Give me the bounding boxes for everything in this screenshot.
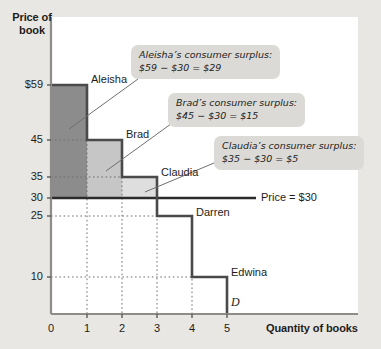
y-tick-label-45: 45 [3,133,43,145]
x-tick-label-5: 5 [217,322,237,334]
y-tick-label-10: 10 [3,270,43,282]
aleisha-surplus-block [51,85,87,198]
consumer-label-claudia: Claudia [161,166,198,178]
price-line-label: Price = $30 [261,191,317,203]
demand-curve-label: D [231,295,240,310]
callout-claudia-line1: Claudia’s consumer surplus: [222,140,356,151]
y-tick-label-30: 30 [3,191,43,203]
x-tick-label-4: 4 [182,322,202,334]
callout-aleisha-line2: $59 − $30 = $29 [139,62,221,73]
consumer-surplus-figure: Price of book Quantity of books $59 45 3… [0,0,381,349]
consumer-label-darren: Darren [196,206,230,218]
y-tick-label-59: $59 [3,78,43,90]
y-axis-title: Price of book [11,11,53,37]
brad-surplus-block [87,140,122,198]
x-axis-title: Quantity of books [266,322,358,335]
callout-brad-surplus: Brad’s consumer surplus: $45 − $30 = $15 [168,93,305,127]
y-tick-label-35: 35 [3,170,43,182]
x-tick-label-1: 1 [77,322,97,334]
claudia-surplus-block [122,177,157,198]
y-tick-label-25: 25 [3,209,43,221]
callout-claudia-line2: $35 − $30 = $5 [222,153,298,164]
x-tick-label-0: 0 [41,322,61,334]
callout-aleisha-surplus: Aleisha’s consumer surplus: $59 − $30 = … [131,45,280,79]
x-tick-label-3: 3 [147,322,167,334]
figure-panel: Price of book Quantity of books $59 45 3… [3,3,378,346]
consumer-label-aleisha: Aleisha [91,73,127,85]
callout-claudia-surplus: Claudia’s consumer surplus: $35 − $30 = … [214,136,364,170]
consumer-label-brad: Brad [126,128,149,140]
x-tick-label-2: 2 [112,322,132,334]
y-axis-title-line2: book [19,24,45,36]
callout-brad-line2: $45 − $30 = $15 [176,110,258,121]
consumer-label-edwina: Edwina [231,266,267,278]
y-axis-title-line1: Price of [12,11,52,23]
callout-aleisha-line1: Aleisha’s consumer surplus: [139,49,272,60]
callout-brad-line1: Brad’s consumer surplus: [176,97,297,108]
